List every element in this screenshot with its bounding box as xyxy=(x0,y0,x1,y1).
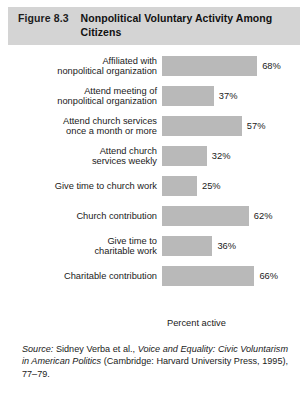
bar-value-label: 62% xyxy=(254,211,273,221)
bar-track: 32% xyxy=(162,146,308,166)
bar-category-label: Give time to charitable work xyxy=(0,236,162,256)
bar-track: 37% xyxy=(162,86,308,106)
bar-category-label: Affiliated with nonpolitical organizatio… xyxy=(0,56,162,76)
bar-value-label: 66% xyxy=(259,271,278,281)
bar-value-label: 57% xyxy=(247,121,266,131)
bar-fill xyxy=(162,206,249,226)
bar-fill xyxy=(162,146,207,166)
bar-category-label: Attend church services weekly xyxy=(0,146,162,166)
bar-value-label: 37% xyxy=(219,91,238,101)
bar-row: Charitable contribution 66% xyxy=(0,266,308,286)
bar-value-label: 68% xyxy=(262,61,281,71)
bar-row: Church contribution 62% xyxy=(0,206,308,226)
figure-number: Figure 8.3 xyxy=(18,12,69,24)
bar-fill xyxy=(162,266,254,286)
bar-track: 66% xyxy=(162,266,308,286)
bar-category-label: Charitable contribution xyxy=(0,271,162,281)
figure-title: Nonpolitical Voluntary Activity Among Ci… xyxy=(81,12,273,39)
bar-value-label: 25% xyxy=(202,181,221,191)
bar-track: 57% xyxy=(162,116,308,136)
bar-fill xyxy=(162,86,214,106)
bar-value-label: 36% xyxy=(217,241,236,251)
figure-title-line-1: Nonpolitical Voluntary Activity Among xyxy=(81,12,273,24)
x-axis-label: Percent active xyxy=(167,318,267,328)
bar-fill xyxy=(162,116,242,136)
bar-track: 25% xyxy=(162,176,308,196)
source-authors: Sidney Verba et al., xyxy=(53,344,137,354)
bar-chart: Affiliated with nonpolitical organizatio… xyxy=(0,56,308,296)
source-citation: Source: Sidney Verba et al., Voice and E… xyxy=(22,343,288,380)
figure-title-line-2: Citizens xyxy=(81,26,122,38)
bar-row: Give time to church work 25% xyxy=(0,176,308,196)
bar-fill xyxy=(162,56,257,76)
bar-value-label: 32% xyxy=(212,151,231,161)
bar-category-label: Attend meeting of nonpolitical organizat… xyxy=(0,86,162,106)
bar-fill xyxy=(162,176,197,196)
bar-track: 68% xyxy=(162,56,308,76)
bar-category-label: Attend church services once a month or m… xyxy=(0,116,162,136)
bar-row: Attend church services once a month or m… xyxy=(0,116,308,136)
bar-row: Give time to charitable work 36% xyxy=(0,236,308,256)
source-label: Source: xyxy=(22,344,53,354)
bar-row: Attend meeting of nonpolitical organizat… xyxy=(0,86,308,106)
bar-category-label: Church contribution xyxy=(0,211,162,221)
bar-track: 62% xyxy=(162,206,308,226)
bar-fill xyxy=(162,236,212,256)
bar-row: Affiliated with nonpolitical organizatio… xyxy=(0,56,308,76)
figure-header-band: Figure 8.3 Nonpolitical Voluntary Activi… xyxy=(8,7,300,45)
bar-category-label: Give time to church work xyxy=(0,181,162,191)
bar-track: 36% xyxy=(162,236,308,256)
bar-row: Attend church services weekly 32% xyxy=(0,146,308,166)
